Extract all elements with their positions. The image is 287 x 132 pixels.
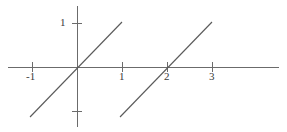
x-tick-label-3: 3 (209, 71, 215, 82)
graph-figure: -11231 (0, 0, 287, 132)
x-tick-label--1: -1 (26, 71, 35, 82)
axis-group (8, 6, 279, 127)
y-tick-label-1: 1 (60, 17, 66, 28)
plot-canvas (0, 0, 287, 132)
x-tick-label-1: 1 (119, 71, 125, 82)
x-tick-label-2: 2 (164, 71, 170, 82)
series-line-0 (30, 22, 122, 117)
